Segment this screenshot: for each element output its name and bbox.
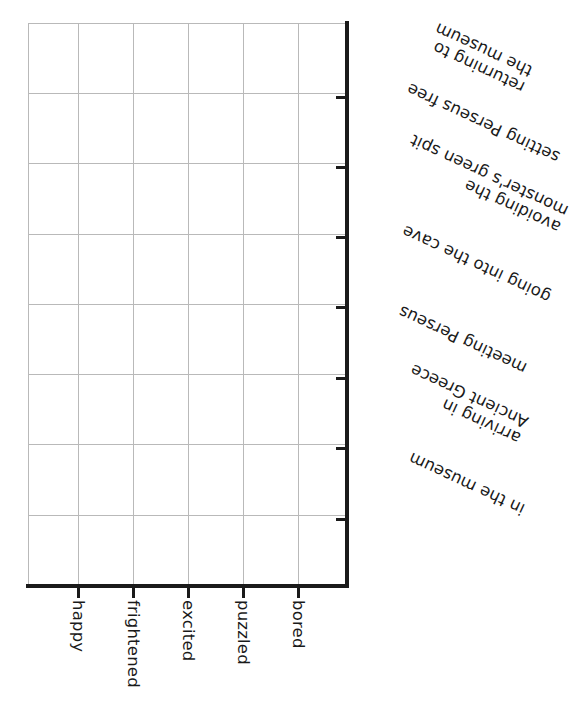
gridline-vertical: [298, 23, 299, 585]
emotion-axis-label-happy: happy: [70, 600, 87, 652]
stage-axis-line: [345, 21, 349, 588]
emotion-axis-label-puzzled: puzzled: [235, 600, 252, 665]
gridline-vertical: [133, 23, 134, 585]
stage-axis-tick: [336, 447, 348, 450]
emotion-axis-tick: [242, 586, 245, 598]
stage-axis-tick: [336, 166, 348, 169]
emotion-axis-tick: [77, 586, 80, 598]
stage-axis-tick: [336, 236, 348, 239]
stage-axis-tick: [336, 306, 348, 309]
emotion-axis-tick: [132, 586, 135, 598]
emotion-axis-label-bored: bored: [290, 600, 307, 649]
gridline-vertical: [188, 23, 189, 585]
stage-label-line1: going into the cave: [399, 221, 553, 306]
gridline-vertical: [78, 23, 79, 585]
stage-axis-label-in-the-museum: in the museum: [406, 448, 528, 518]
stage-axis-tick: [336, 518, 348, 521]
stage-axis-tick: [336, 96, 348, 99]
emotion-axis-tick: [297, 586, 300, 598]
stage-label-line1: in the museum: [406, 449, 528, 519]
plot-area: [28, 23, 347, 585]
stage-axis-tick: [336, 377, 348, 380]
emotion-axis-label-excited: excited: [180, 600, 197, 662]
emotion-axis-tick: [187, 586, 190, 598]
gridline-vertical: [28, 23, 29, 585]
gridline-vertical: [243, 23, 244, 585]
emotion-axis-label-frightened: frightened: [125, 600, 142, 688]
stage-axis-label-returning-to-the-museum: returning to the museum: [425, 18, 536, 96]
stage-axis-label-going-into-the-cave: going into the cave: [400, 221, 554, 306]
